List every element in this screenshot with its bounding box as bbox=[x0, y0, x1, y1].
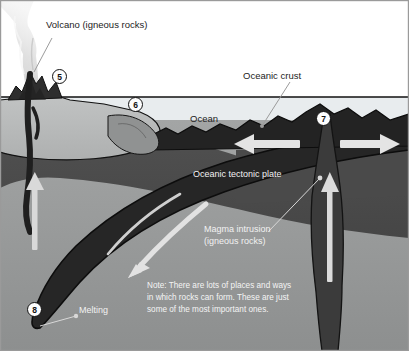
marker-8[interactable]: 8 bbox=[27, 302, 42, 317]
marker-7[interactable]: 7 bbox=[316, 111, 331, 126]
leader-dot-oceanic-crust bbox=[260, 124, 264, 128]
marker-6[interactable]: 6 bbox=[128, 97, 143, 112]
leader-dot-magma-intrusion bbox=[318, 176, 323, 181]
leader-dot-melting bbox=[74, 314, 78, 318]
marker-5[interactable]: 5 bbox=[52, 69, 67, 84]
rock-cycle-diagram: Volcano (igneous rocks) Oceanic crust Oc… bbox=[0, 0, 409, 351]
diagram-canvas bbox=[0, 0, 409, 351]
